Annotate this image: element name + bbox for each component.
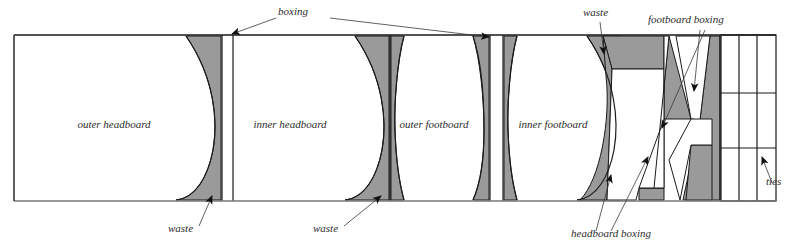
panel-label-inner-footboard: inner footboard	[519, 118, 588, 130]
cutting-layout-figure: outer headboard inner headboard outer fo…	[0, 0, 794, 249]
panel-labels: outer headboard inner headboard outer fo…	[77, 118, 588, 130]
waste-region-lower-right-block	[686, 145, 712, 200]
panel-label-inner-headboard: inner headboard	[253, 118, 327, 130]
callout-label-waste-outer-headboard: waste	[168, 222, 193, 234]
callout-label-ties: ties	[766, 175, 781, 187]
leader-boxing-left	[232, 18, 276, 34]
waste-region-inner-footboard-left	[504, 36, 517, 200]
callout-label-boxing: boxing	[278, 5, 308, 17]
callout-label-footboard-boxing: footboard boxing	[648, 13, 724, 25]
leader-boxing-right	[330, 18, 489, 37]
callout-label-waste-top-right: waste	[583, 6, 608, 18]
waste-region-inner-headboard	[345, 36, 389, 200]
panel-label-outer-headboard: outer headboard	[77, 118, 151, 130]
panel-label-outer-footboard: outer footboard	[400, 118, 469, 130]
callout-label-headboard-boxing: headboard boxing	[571, 227, 651, 239]
waste-region-outer-footboard-right	[473, 36, 489, 200]
layout-drawing: outer headboard inner headboard outer fo…	[0, 0, 794, 249]
waste-region-base-block	[639, 188, 664, 200]
waste-region-top-band	[603, 36, 664, 69]
callout-label-waste-inner-headboard: waste	[313, 222, 338, 234]
